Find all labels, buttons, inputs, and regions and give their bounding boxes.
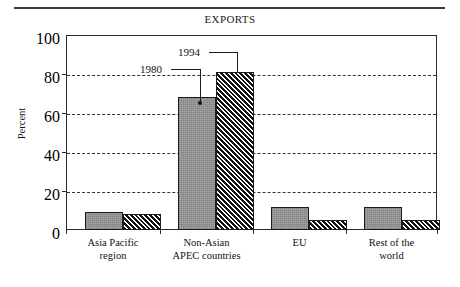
annotation-label-1980: 1980 — [140, 64, 162, 75]
x-category-line-1: Asia Pacific — [66, 236, 160, 249]
y-tick-text: 40 — [44, 147, 60, 164]
x-tick-mark-2 — [253, 230, 254, 234]
x-category-rest-of-the-world: Rest of the world — [346, 236, 437, 262]
x-category-line-1: Non-Asian — [160, 236, 253, 249]
exports-bar-chart-figure: EXPORTS Percent 0 20 40 60 80 100 — [0, 0, 460, 287]
y-tick-label-60: 60 — [26, 108, 60, 126]
x-category-line-1: Rest of the — [346, 236, 437, 249]
y-tick-text: 60 — [44, 108, 60, 125]
x-category-line-1: EU — [253, 236, 346, 249]
bar-1980-non-asian-apec-countries — [178, 97, 216, 230]
bars-layer — [66, 35, 437, 230]
x-category-line-2: world — [346, 249, 437, 262]
x-category-asia-pacific-region: Asia Pacific region — [66, 236, 160, 262]
x-category-non-asian-apec-countries: Non-Asian APEC countries — [160, 236, 253, 262]
bar-1994-eu — [309, 220, 347, 230]
y-axis-title: Percent — [16, 89, 27, 159]
x-category-line-2: APEC countries — [160, 249, 253, 262]
bar-1980-eu — [271, 207, 309, 230]
y-tick-text: 0 — [52, 225, 60, 242]
y-tick-text: 20 — [44, 186, 60, 203]
y-tick-label-0: 0 — [26, 225, 60, 243]
x-tick-mark-3 — [346, 230, 347, 234]
annotation-leader-v-1980 — [200, 69, 201, 103]
bar-1980-rest-of-the-world — [364, 207, 402, 230]
x-category-eu: EU — [253, 236, 346, 249]
header-rule — [14, 7, 445, 9]
bar-1994-non-asian-apec-countries — [216, 72, 254, 230]
annotation-leader-v-1994 — [237, 52, 238, 72]
annotation-label-1994: 1994 — [178, 47, 200, 58]
annotation-dot-1980 — [198, 101, 202, 105]
y-tick-text: 100 — [36, 30, 60, 47]
annotation-leader-h-1980 — [171, 69, 200, 70]
x-tick-mark-1 — [160, 230, 161, 234]
x-tick-mark-right — [437, 230, 438, 234]
x-tick-mark-left — [66, 230, 67, 234]
y-tick-label-40: 40 — [26, 147, 60, 165]
y-tick-text: 80 — [44, 69, 60, 86]
y-tick-label-20: 20 — [26, 186, 60, 204]
bar-1994-asia-pacific-region — [123, 214, 161, 230]
y-tick-label-100: 100 — [26, 30, 60, 48]
bar-1994-rest-of-the-world — [402, 220, 440, 230]
chart-title: EXPORTS — [0, 13, 460, 25]
y-tick-label-80: 80 — [26, 69, 60, 87]
annotation-leader-h-1994 — [209, 52, 237, 53]
x-category-line-2: region — [66, 249, 160, 262]
bar-1980-asia-pacific-region — [85, 212, 123, 230]
